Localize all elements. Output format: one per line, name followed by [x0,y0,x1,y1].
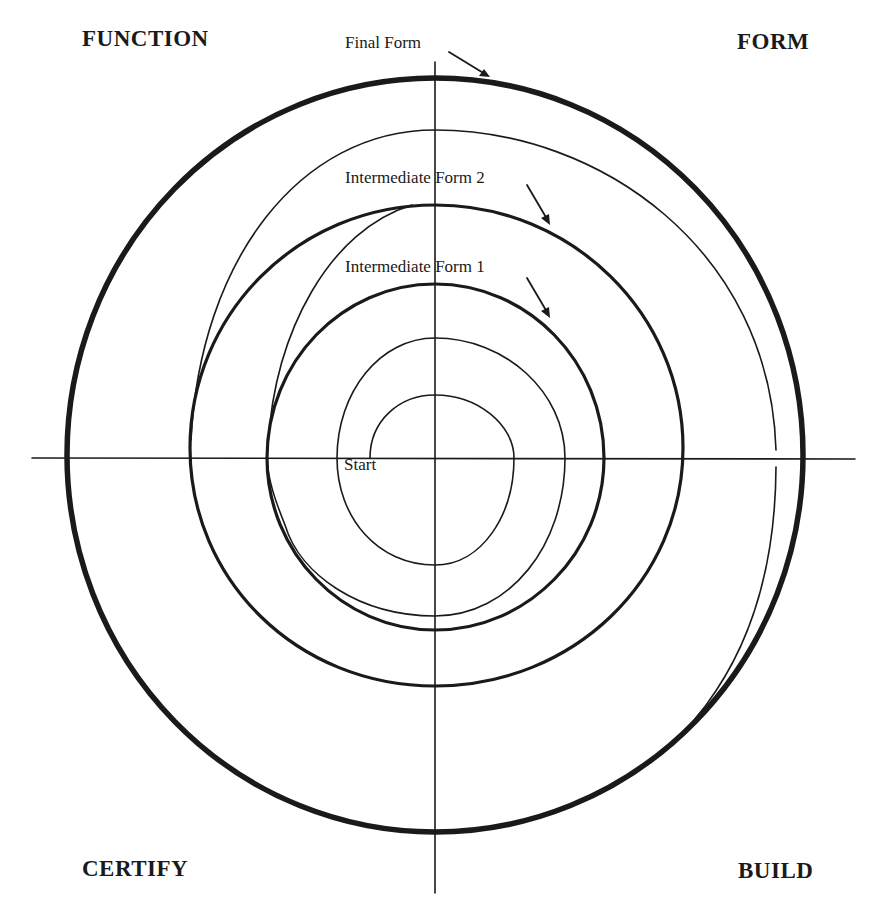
arrow-intermediate-form-2 [527,185,550,225]
intermediate-form-1-label: Intermediate Form 1 [345,257,485,277]
spiral-transition-2-lower [505,467,776,826]
final-form-label: Final Form [345,33,421,53]
start-label: Start [344,455,376,475]
quadrant-label-form: FORM [737,29,809,55]
intermediate-form-2-label: Intermediate Form 2 [345,168,485,188]
spiral-transition-1 [268,205,412,445]
quadrant-label-function: FUNCTION [82,26,209,52]
spiral-diagram [0,0,877,916]
quadrant-label-certify: CERTIFY [82,856,188,882]
quadrant-label-build: BUILD [738,858,813,884]
arrow-intermediate-form-1 [527,278,550,318]
arrow-final-form [449,52,490,77]
horizontal-axis [32,458,855,459]
intermediate-form-2-ring [190,205,683,686]
